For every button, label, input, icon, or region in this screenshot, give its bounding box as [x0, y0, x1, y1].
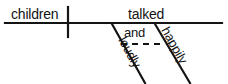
sentence-diagram: children talked and loudly happily [0, 0, 228, 84]
subject-word: children [11, 6, 58, 22]
verb-word: talked [128, 6, 164, 22]
diagram-canvas: children talked and loudly happily [0, 0, 228, 84]
modifier-word-happily: happily [158, 24, 191, 67]
